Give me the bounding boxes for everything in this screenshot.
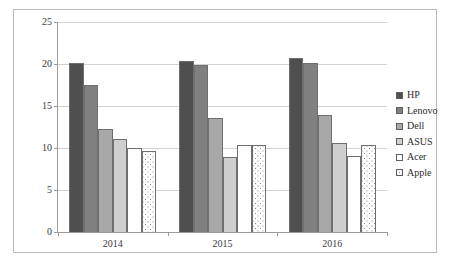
- bar-hp-2015[interactable]: [179, 61, 194, 232]
- bar-asus-2016[interactable]: [332, 143, 347, 232]
- legend-item-label: Lenovo: [407, 106, 438, 116]
- bar-acer-2015[interactable]: [237, 145, 252, 232]
- legend-item-acer[interactable]: Acer: [396, 152, 438, 162]
- y-axis-tick-label: 15: [42, 101, 52, 111]
- bar-lenovo-2016[interactable]: [303, 63, 318, 232]
- x-axis-tick-mark: [168, 232, 169, 236]
- plot-area: 0510152025 201420152016: [57, 22, 387, 233]
- legend-item-label: HP: [407, 90, 420, 100]
- y-axis-tick-label: 5: [47, 185, 52, 195]
- legend-swatch-icon: [396, 138, 403, 145]
- legend-item-hp[interactable]: HP: [396, 90, 438, 100]
- bar-acer-2014[interactable]: [127, 148, 142, 232]
- legend-item-label: Dell: [407, 121, 424, 131]
- legend-item-label: Apple: [407, 168, 431, 178]
- y-axis-tick-label: 20: [42, 59, 52, 69]
- legend-swatch-icon: [396, 107, 403, 114]
- bar-series-layer: [58, 22, 387, 232]
- bar-apple-2015[interactable]: [252, 145, 267, 232]
- legend-item-label: ASUS: [407, 137, 433, 147]
- bar-lenovo-2015[interactable]: [194, 65, 209, 232]
- legend-swatch-icon: [396, 123, 403, 130]
- legend-swatch-icon: [396, 169, 403, 176]
- x-axis-category-label: 2015: [213, 239, 233, 249]
- legend-item-lenovo[interactable]: Lenovo: [396, 106, 438, 116]
- bar-group: [289, 22, 376, 232]
- bar-apple-2016[interactable]: [361, 145, 376, 232]
- y-axis-tick-label: 0: [47, 227, 52, 237]
- bar-hp-2016[interactable]: [289, 58, 304, 232]
- bar-hp-2014[interactable]: [69, 63, 84, 232]
- legend-item-apple[interactable]: Apple: [396, 168, 438, 178]
- bar-asus-2014[interactable]: [113, 139, 128, 232]
- x-axis-tick-mark: [387, 232, 388, 236]
- bar-dell-2014[interactable]: [98, 129, 113, 232]
- y-axis-tick-label: 10: [42, 143, 52, 153]
- bar-acer-2016[interactable]: [347, 156, 362, 232]
- bar-group: [69, 22, 156, 232]
- chart-frame: 0510152025 201420152016 HPLenovoDellASUS…: [13, 9, 437, 253]
- bar-asus-2015[interactable]: [223, 157, 238, 232]
- legend-swatch-icon: [396, 92, 403, 99]
- legend-swatch-icon: [396, 154, 403, 161]
- legend-item-asus[interactable]: ASUS: [396, 137, 438, 147]
- bar-group: [179, 22, 266, 232]
- chart-legend: HPLenovoDellASUSAcerApple: [396, 90, 438, 178]
- y-axis-tick-label: 25: [42, 17, 52, 27]
- bar-apple-2014[interactable]: [142, 151, 157, 232]
- x-axis-tick-mark: [58, 232, 59, 236]
- legend-item-label: Acer: [407, 152, 426, 162]
- bar-dell-2015[interactable]: [208, 118, 223, 232]
- x-axis-category-label: 2016: [322, 239, 342, 249]
- bar-lenovo-2014[interactable]: [84, 85, 99, 232]
- x-axis-category-label: 2014: [103, 239, 123, 249]
- bar-dell-2016[interactable]: [318, 115, 333, 232]
- legend-item-dell[interactable]: Dell: [396, 121, 438, 131]
- x-axis-tick-mark: [277, 232, 278, 236]
